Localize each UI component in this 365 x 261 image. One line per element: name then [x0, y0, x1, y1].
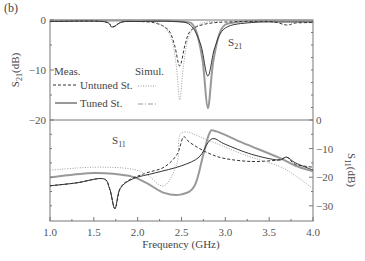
x-tick-label: 3.5 [262, 226, 276, 238]
legend-label-tuned: Tuned St. [80, 97, 123, 109]
x-tick-label: 2.5 [175, 226, 189, 238]
legend: Meas. Simul. Untuned St. Tuned St. [53, 65, 164, 109]
x-axis-title: Frequency (GHz) [142, 238, 220, 251]
x-tick-label: 4.0 [306, 226, 320, 238]
y-tick-label: −10 [29, 64, 47, 76]
svg-text:S21(dB): S21(dB) [9, 53, 24, 88]
s21-curves [50, 20, 313, 108]
y-tick-label: 0 [316, 114, 322, 126]
y-tick-label: −20 [29, 114, 47, 126]
s-parameter-chart: (b) 1.01.52.02.53.03.54.0 0−10−20 0−10−2… [0, 0, 365, 261]
x-tick-label: 1.0 [43, 226, 57, 238]
s21-annotation: S21 [228, 36, 242, 51]
x-tick-label: 2.0 [131, 226, 145, 238]
s11-curves [50, 130, 313, 209]
y-tick-label: −20 [316, 171, 334, 183]
panel-label: (b) [4, 1, 18, 15]
legend-header-meas: Meas. [54, 65, 81, 77]
x-axis-ticks: 1.01.52.02.53.03.54.0 [43, 217, 320, 238]
legend-header-simul: Simul. [135, 65, 164, 77]
y-tick-label: 0 [41, 14, 47, 26]
legend-label-untuned: Untuned St. [80, 79, 133, 91]
y-tick-label: −30 [316, 200, 334, 212]
x-tick-label: 1.5 [87, 226, 101, 238]
s11-annotation: S11 [112, 134, 126, 149]
s21-y-axis-title: S21(dB) [9, 53, 24, 88]
svg-text:S11(dB): S11(dB) [343, 153, 358, 187]
series-line [50, 21, 313, 76]
x-tick-label: 3.0 [218, 226, 232, 238]
y-tick-label: −10 [316, 143, 334, 155]
plot-frame [50, 20, 313, 221]
series-line [50, 21, 313, 66]
s11-y-axis-title: S11(dB) [343, 153, 358, 187]
series-line [50, 20, 313, 108]
